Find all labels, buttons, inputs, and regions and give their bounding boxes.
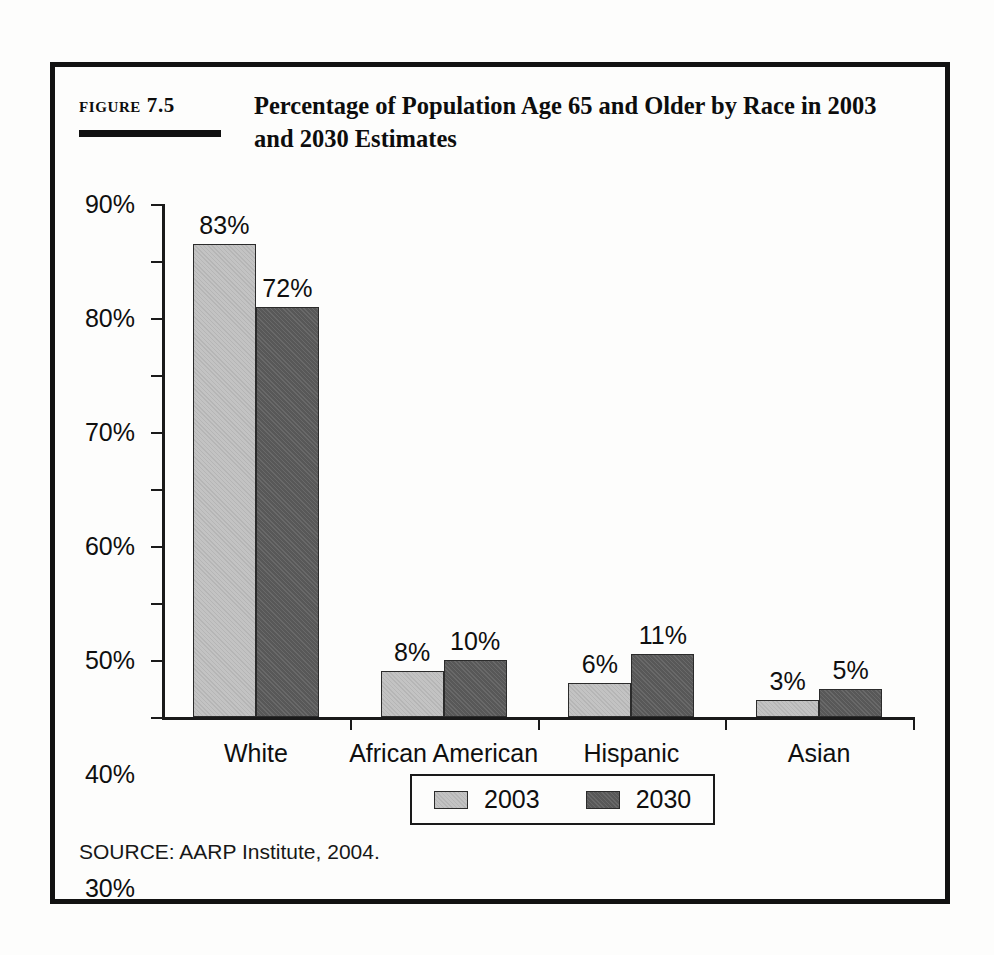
y-axis-tick-label: 30% xyxy=(85,874,135,903)
y-axis-tick: 60% xyxy=(151,375,162,377)
category-label-asian: Asian xyxy=(788,739,851,768)
bar-value-label: 11% xyxy=(639,621,687,650)
y-axis-line xyxy=(162,204,165,717)
bar-african-american-2030[interactable]: 10% xyxy=(444,660,507,717)
category-label-african-american: African American xyxy=(349,739,538,768)
y-axis-tick: 70% xyxy=(151,318,162,320)
legend-label-2030: 2030 xyxy=(636,785,692,814)
y-axis-tick-label: 70% xyxy=(85,418,135,447)
y-axis-tick: 30% xyxy=(151,546,162,548)
y-axis-tick-label: 60% xyxy=(85,532,135,561)
source-note: SOURCE: AARP Institute, 2004. xyxy=(79,840,380,864)
y-axis-tick-label: 40% xyxy=(85,760,135,789)
bar-asian-2030[interactable]: 5% xyxy=(819,689,882,718)
y-axis-tick-label: 90% xyxy=(85,190,135,219)
x-axis-tick xyxy=(913,717,915,730)
chart-legend: 2003 2030 xyxy=(410,774,715,825)
figure-frame: Figure 7.5 Percentage of Population Age … xyxy=(50,62,950,904)
bar-white-2003[interactable]: 83% xyxy=(193,244,256,717)
bar-value-label: 5% xyxy=(833,656,869,685)
y-axis-tick: 0% xyxy=(151,717,162,719)
bar-value-label: 8% xyxy=(394,638,430,667)
x-axis-tick xyxy=(350,717,352,730)
bar-african-american-2003[interactable]: 8% xyxy=(381,671,444,717)
y-axis-tick: 40% xyxy=(151,489,162,491)
y-axis-tick: 80% xyxy=(151,261,162,263)
legend-item-2003[interactable]: 2003 xyxy=(434,785,540,814)
bar-hispanic-2030[interactable]: 11% xyxy=(631,654,694,717)
bar-value-label: 6% xyxy=(582,650,618,679)
bar-white-2030[interactable]: 72% xyxy=(256,307,319,717)
plot-area: 0%10%20%30%40%50%60%70%80%90% 83%72%8%10… xyxy=(162,204,913,717)
x-axis-tick xyxy=(725,717,727,730)
y-axis-tick: 10% xyxy=(151,660,162,662)
bar-value-label: 10% xyxy=(450,627,500,656)
y-axis-tick: 90% xyxy=(151,204,162,206)
bar-asian-2003[interactable]: 3% xyxy=(756,700,819,717)
y-axis-tick: 50% xyxy=(151,432,162,434)
y-axis-tick: 20% xyxy=(151,603,162,605)
legend-label-2003: 2003 xyxy=(484,785,540,814)
category-label-white: White xyxy=(224,739,288,768)
y-axis-tick-label: 80% xyxy=(85,304,135,333)
bar-hispanic-2003[interactable]: 6% xyxy=(568,683,631,717)
legend-swatch-2030-icon xyxy=(586,791,620,809)
bar-value-label: 3% xyxy=(770,667,806,696)
bar-chart: 0%10%20%30%40%50%60%70%80%90% 83%72%8%10… xyxy=(55,67,945,899)
y-axis-tick-label: 50% xyxy=(85,646,135,675)
bar-value-label: 83% xyxy=(199,211,249,240)
x-axis-tick xyxy=(538,717,540,730)
bar-value-label: 72% xyxy=(262,274,312,303)
category-label-hispanic: Hispanic xyxy=(583,739,679,768)
legend-item-2030[interactable]: 2030 xyxy=(586,785,692,814)
legend-swatch-2003-icon xyxy=(434,791,468,809)
